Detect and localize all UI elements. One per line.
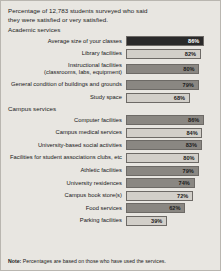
note-label: Note: [8,258,21,264]
chart-bar-value: 62% [169,203,180,213]
chart-bar-area: 79% [126,166,213,176]
chart-row-label-line-1: Library facilities [82,50,122,56]
chart-row: Parking facilities39% [8,216,213,226]
chart-row-label: Study space [8,94,126,101]
chart-row-label: Campus book store(s) [8,192,126,199]
chart-row-label: General condition of buildings and groun… [8,81,126,88]
chart-row: Library facilities82% [8,49,213,59]
chart-row-label-line-1: Study space [90,94,122,100]
chart-bar-value: 86% [188,36,199,46]
chart-row-label-line-1: Campus medical services [55,129,122,135]
chart-bar-value: 86% [188,115,199,125]
chart-bar-area: 82% [126,49,213,59]
section-rows: Average size of your classes86%Library f… [8,36,213,102]
chart-row-label-line-1: Food services [86,205,122,211]
chart-note: Note: Percentages are based on those who… [8,258,166,265]
chart-row: University residences74% [8,178,213,188]
chart-row: General condition of buildings and groun… [8,80,213,90]
chart-sections: Academic servicesAverage size of your cl… [8,26,213,226]
chart-bar-value: 80% [183,153,194,163]
chart-title: Percentage of 12,783 students surveyed w… [8,7,213,24]
chart-bar-value: 39% [151,216,162,226]
chart-row-label-line-1: General condition of buildings and groun… [11,81,122,87]
chart-row-label-line-1: Computer facilities [74,117,122,123]
chart-bar-area: 74% [126,178,213,188]
chart-row-label-line-2: (classrooms, labs, equipment) [8,69,122,76]
chart-row-label-line-1: Facilities for student associations club… [10,154,122,160]
chart-row-label-line-1: Athletic facilities [80,167,122,173]
chart-row-label-line-1: Parking facilities [80,217,122,223]
chart-row: University-based social activities83% [8,140,213,150]
chart-bar-value: 79% [183,80,194,90]
chart-row-label-line-1: Campus book store(s) [65,192,122,198]
chart-row-label-line-1: University-based social activities [38,142,122,148]
chart-bar-value: 68% [174,93,185,103]
chart-row: Athletic facilities79% [8,166,213,176]
chart-bar-area: 86% [126,115,213,125]
section-rows: Computer facilities86%Campus medical ser… [8,115,213,226]
chart-bar-value: 80% [183,64,194,74]
chart-bar-value: 74% [179,178,190,188]
chart-bar-area: 83% [126,140,213,150]
chart-row-label: University-based social activities [8,142,126,149]
chart-row-label: Instructional facilities(classrooms, lab… [8,62,126,76]
chart-row-label-line-1: University residences [66,180,122,186]
chart-bar-value: 83% [186,140,197,150]
chart-bar-value: 84% [186,128,197,138]
section-heading: Campus services [8,105,213,112]
chart-row-label: Library facilities [8,50,126,57]
chart-row-label-line-1: Average size of your classes [48,38,122,44]
chart-bar-value: 72% [177,191,188,201]
chart-title-line-1: Percentage of 12,783 students surveyed w… [8,7,213,16]
chart-bar-area: 72% [126,191,213,201]
chart-row: Campus book store(s)72% [8,191,213,201]
chart-row-label: Campus medical services [8,129,126,136]
chart-bar-area: 62% [126,203,213,213]
chart-row: Campus medical services84% [8,128,213,138]
chart-bar-value: 79% [183,166,194,176]
chart-row: Average size of your classes86% [8,36,213,46]
chart-bar-area: 80% [126,64,213,74]
chart-bar-area: 68% [126,93,213,103]
chart-row: Computer facilities86% [8,115,213,125]
chart-row: Food services62% [8,203,213,213]
chart-bar-area: 84% [126,128,213,138]
chart-row-label: Computer facilities [8,117,126,124]
chart-bar-area: 39% [126,216,213,226]
chart-bar-value: 82% [185,49,196,59]
chart-row-label: Average size of your classes [8,38,126,45]
chart-row-label: Food services [8,205,126,212]
chart-row-label: Facilities for student associations club… [8,154,126,161]
survey-bar-chart-card: Percentage of 12,783 students surveyed w… [0,0,221,271]
chart-title-line-2: they were satisfied or very satisfied. [8,16,213,25]
chart-row: Instructional facilities(classrooms, lab… [8,61,213,77]
chart-bar-area: 79% [126,80,213,90]
chart-row-label: Parking facilities [8,217,126,224]
chart-row-label: Athletic facilities [8,167,126,174]
chart-bar-area: 80% [126,153,213,163]
note-text: Percentages are based on those who have … [21,258,166,264]
chart-row-label-line-1: Instructional facilities [68,62,122,68]
chart-row-label: University residences [8,180,126,187]
chart-bar-area: 86% [126,36,213,46]
section-heading: Academic services [8,26,213,33]
chart-row: Study space68% [8,93,213,103]
chart-row: Facilities for student associations club… [8,153,213,163]
